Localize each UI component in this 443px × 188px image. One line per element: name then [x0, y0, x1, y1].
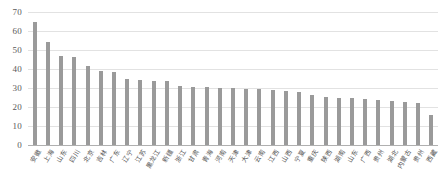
x-tick-label: 青海 [202, 148, 215, 163]
bar [46, 42, 50, 145]
x-tick-label: 甘肃 [188, 148, 201, 163]
x-tick-label: 湖南 [334, 148, 347, 163]
bar [429, 115, 433, 145]
x-tick-label: 浙江 [175, 148, 188, 163]
y-tick-label: 20 [13, 103, 22, 112]
bar [86, 66, 90, 145]
x-tick-label: 云南 [254, 148, 267, 163]
x-tick-label: 西藏 [426, 148, 439, 163]
x-tick-label: 上海 [43, 148, 56, 163]
bar [178, 86, 182, 145]
x-axis: 安徽上海山东四川北京吉林广东辽宁江苏黑龙江新疆浙江甘肃青海河南天津大津云南江西山… [28, 146, 438, 188]
x-tick-label: 江西 [268, 148, 281, 163]
y-tick-label: 10 [13, 122, 22, 131]
bar [284, 91, 288, 145]
y-tick-label: 0 [17, 141, 22, 150]
y-tick-label: 30 [13, 84, 22, 93]
bar [271, 90, 275, 145]
bar [33, 22, 37, 146]
bar [337, 98, 341, 146]
bar [416, 103, 420, 145]
bar [297, 92, 301, 145]
x-tick-label: 四川 [69, 148, 82, 163]
x-tick-label: 宁夏 [294, 148, 307, 163]
x-tick-label: 北京 [83, 148, 96, 163]
x-tick-label: 大津 [241, 148, 254, 163]
bar [310, 95, 314, 145]
bar [165, 81, 169, 145]
x-tick-label: 新疆 [162, 148, 175, 163]
bar [152, 81, 156, 145]
x-tick-label: 辽宁 [122, 148, 135, 163]
bar [72, 57, 76, 145]
x-tick-label: 安徽 [30, 148, 43, 163]
bar [218, 88, 222, 145]
bar-series [28, 12, 438, 145]
x-tick-label: 贵州 [413, 148, 426, 163]
bar [138, 80, 142, 145]
bar [350, 98, 354, 145]
y-axis: 010203040506070 [0, 0, 26, 157]
bar [205, 87, 209, 145]
bar [244, 89, 248, 145]
bar [59, 56, 63, 145]
x-tick-label: 山西 [281, 148, 294, 163]
y-tick-label: 40 [13, 65, 22, 74]
bar [363, 99, 367, 145]
bar [99, 71, 103, 145]
x-tick-label: 天津 [228, 148, 241, 163]
x-tick-label: 重庆 [307, 148, 320, 163]
bar [390, 101, 394, 145]
bar [324, 97, 328, 145]
bar [376, 100, 380, 145]
x-tick-label: 河南 [215, 148, 228, 163]
bar-chart: 010203040506070 安徽上海山东四川北京吉林广东辽宁江苏黑龙江新疆浙… [0, 0, 443, 188]
bar [191, 87, 195, 145]
y-tick-label: 50 [13, 46, 22, 55]
bar [231, 88, 235, 145]
bar [112, 72, 116, 145]
y-tick-label: 60 [13, 27, 22, 36]
x-tick-label: 山东 [56, 148, 69, 163]
bar [125, 79, 129, 146]
x-tick-label: 贵州 [373, 148, 386, 163]
x-tick-label: 广东 [109, 148, 122, 163]
x-tick-label: 广西 [360, 148, 373, 163]
bar [403, 102, 407, 145]
x-tick-label: 山东 [347, 148, 360, 163]
y-tick-label: 70 [13, 8, 22, 17]
x-tick-label: 陕西 [321, 148, 334, 163]
bar [257, 89, 261, 145]
x-tick-label: 吉林 [96, 148, 109, 163]
